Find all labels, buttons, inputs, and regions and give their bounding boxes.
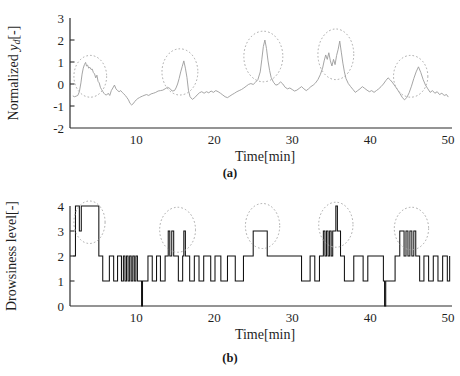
y-axis-tick-label: -1	[53, 99, 64, 114]
figure-container: -2-101231020304050Time[min]Normalized yd…	[0, 0, 460, 376]
normalized-yd-timeseries-plot: -2-101231020304050Time[min]Normalized yd…	[0, 0, 460, 166]
y-axis-tick-label: 2	[58, 33, 65, 48]
y-axis-tick-label: 1	[58, 55, 65, 70]
y-axis-title: Normalized yd[-]	[6, 26, 22, 121]
x-axis-title: Time[min]	[235, 327, 295, 342]
svg-text:Normalized yd[-]: Normalized yd[-]	[6, 26, 22, 121]
x-axis-tick-label: 30	[286, 310, 299, 325]
data-series-line	[73, 40, 448, 105]
svg-text:Drowsiness level[-]: Drowsiness level[-]	[4, 201, 19, 311]
highlight-ellipse-drowsiness-event-3	[245, 204, 279, 249]
x-axis-tick-label: 30	[286, 132, 299, 147]
data-series-line	[74, 206, 450, 306]
y-axis-tick-label: 3	[58, 224, 65, 239]
y-axis-tick-label: 0	[58, 299, 65, 314]
x-axis-tick-label: 20	[208, 132, 221, 147]
caption-panel-b: (b)	[0, 351, 460, 366]
y-axis-title: Drowsiness level[-]	[4, 201, 19, 311]
x-axis-tick-label: 50	[442, 310, 455, 325]
chart-panel-a: -2-101231020304050Time[min]Normalized yd…	[0, 0, 460, 190]
highlight-ellipse-drowsiness-event-1	[74, 55, 107, 97]
y-axis-tick-label: -2	[53, 121, 64, 136]
y-axis-tick-label: 0	[58, 77, 65, 92]
x-axis-tick-label: 40	[364, 132, 377, 147]
highlight-ellipse-drowsiness-event-4	[318, 29, 354, 80]
highlight-ellipse-drowsiness-event-2	[162, 49, 198, 95]
y-axis-tick-label: 3	[58, 11, 65, 26]
y-axis-tick-label: 2	[58, 249, 65, 264]
x-axis-tick-label: 20	[208, 310, 221, 325]
x-axis-title: Time[min]	[235, 149, 295, 164]
chart-panel-b: 012341020304050Time[min]Drowsiness level…	[0, 190, 460, 376]
x-axis-tick-label: 10	[130, 132, 143, 147]
x-axis-tick-label: 50	[442, 132, 455, 147]
x-axis-tick-label: 10	[130, 310, 143, 325]
highlight-ellipse-drowsiness-event-3	[244, 31, 283, 82]
y-axis-tick-label: 4	[58, 199, 65, 214]
drowsiness-level-timeseries-plot: 012341020304050Time[min]Drowsiness level…	[0, 190, 460, 350]
caption-panel-a: (a)	[0, 166, 460, 181]
x-axis-tick-label: 40	[364, 310, 377, 325]
y-axis-tick-label: 1	[58, 274, 65, 289]
highlight-ellipse-drowsiness-event-2	[160, 207, 196, 252]
highlight-ellipse-drowsiness-event-1	[74, 201, 105, 244]
